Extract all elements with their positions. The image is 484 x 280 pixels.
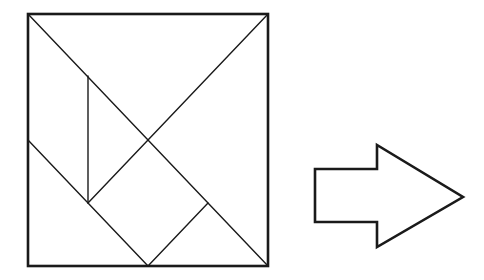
diagonal-tr-center-line [148, 14, 268, 140]
center-to-left-square-corner-line [88, 140, 148, 203]
tangram-piece-lines [28, 14, 268, 266]
tangram-diagram [0, 0, 484, 280]
small-square-right-edge-line [148, 203, 208, 266]
right-arrow-icon [315, 145, 463, 247]
